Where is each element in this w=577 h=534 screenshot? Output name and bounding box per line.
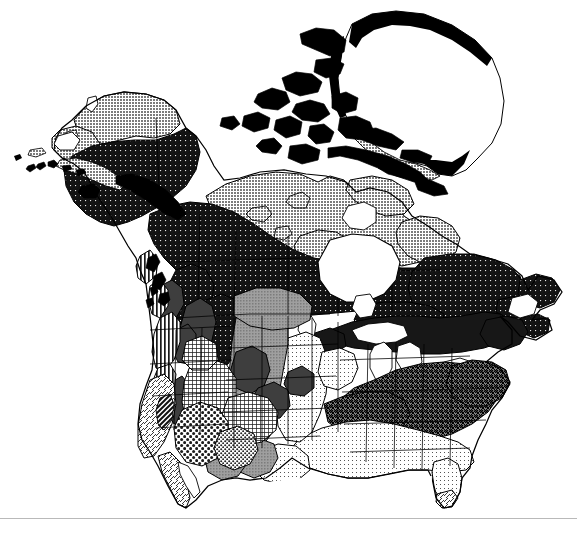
shortgrass-canada-prairie [234,288,312,330]
figure-caption: Vegetation regions of North America [0,522,577,531]
gulf-of-mexico [250,476,432,519]
vegetation-map-figure: Vegetation regions of North America [0,0,577,534]
north-america-vegetation-map [0,0,577,534]
footer-rule [0,518,577,519]
